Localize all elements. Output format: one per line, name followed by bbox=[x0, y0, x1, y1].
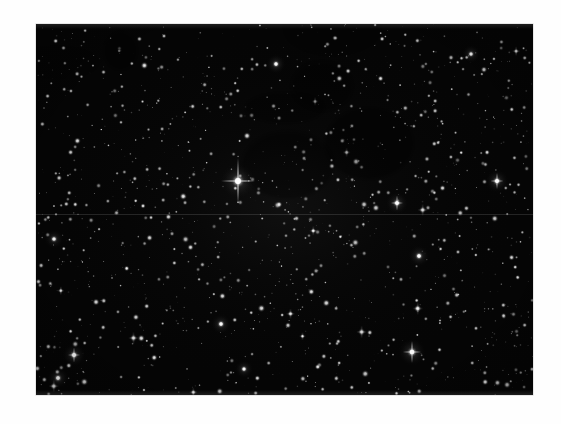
bright-star-lower-left bbox=[62, 343, 86, 367]
bright-star-center-lower bbox=[235, 360, 254, 379]
bright-star-left-mid bbox=[44, 229, 64, 249]
bright-star-top-center bbox=[266, 54, 286, 74]
page-root bbox=[0, 0, 561, 424]
bright-star-bottom-left-corner bbox=[47, 367, 69, 389]
bright-star-bottom-center bbox=[211, 314, 232, 335]
bright-star-upper-right bbox=[485, 169, 509, 193]
bright-star-right-lower bbox=[408, 245, 430, 267]
star-field-canvas bbox=[36, 24, 533, 395]
bright-star-lower-right bbox=[398, 338, 426, 366]
bright-star-mid-right bbox=[386, 192, 409, 215]
star-field-plate bbox=[36, 24, 533, 395]
bright-star-top-right bbox=[462, 45, 481, 64]
